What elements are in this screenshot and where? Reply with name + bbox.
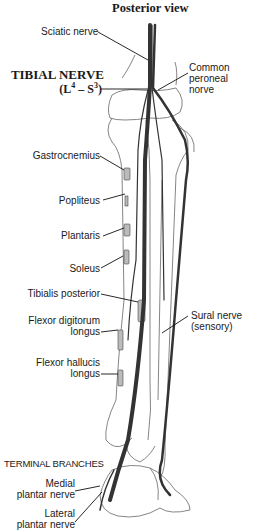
label-lateral-plantar-nerve: Lateral plantar nerve [17, 508, 75, 530]
label-popliteus: Popliteus [59, 195, 100, 206]
label-flexor-digitorum-longus: Flexor digitorum longus [28, 315, 100, 337]
tibial-nerve-roots: (L4 – S3) [59, 81, 102, 97]
label-soleus: Soleus [69, 263, 100, 274]
label-sciatic-nerve: Sciatic nerve [41, 26, 98, 37]
label-medial-plantar-nerve: Medial plantar nerve [17, 478, 75, 500]
leader-lines [75, 32, 188, 522]
label-tibialis-posterior: Tibialis posterior [28, 288, 100, 299]
label-plantaris: Plantaris [61, 230, 100, 241]
view-title: Posterior view [112, 1, 188, 16]
label-gastrocnemius: Gastrocnemius [33, 150, 100, 161]
nerve-paths [100, 25, 188, 510]
label-flexor-hallucis-longus: Flexor hallucis longus [36, 357, 100, 379]
terminal-branches-heading: TERMINAL BRANCHES [4, 458, 104, 469]
label-sural-nerve: Sural nerve (sensory) [191, 310, 242, 332]
label-common-peroneal-nerve: Common peroneal norve [189, 62, 230, 95]
tibial-nerve-title: TIBIAL NERVE [11, 68, 104, 81]
